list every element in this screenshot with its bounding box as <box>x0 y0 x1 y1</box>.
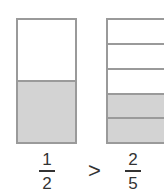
fraction-model-halves <box>16 18 77 144</box>
half-part-shaded <box>18 82 75 142</box>
fraction-one-half: 1 2 <box>37 151 57 192</box>
denominator: 2 <box>37 175 57 192</box>
half-part-unshaded <box>18 20 75 81</box>
fifth-part-1 <box>108 20 164 44</box>
fraction-bar <box>39 170 55 172</box>
fifth-part-4-shaded <box>108 95 164 118</box>
fifth-part-5-shaded <box>108 119 164 142</box>
fifth-part-2 <box>108 45 164 69</box>
fifth-part-3 <box>108 70 164 94</box>
numerator: 1 <box>37 151 57 168</box>
greater-than-sign: > <box>88 160 101 182</box>
numerator: 2 <box>123 151 143 168</box>
fraction-two-fifths: 2 5 <box>123 151 143 192</box>
fraction-bar <box>125 170 141 172</box>
denominator: 5 <box>123 175 143 192</box>
fraction-model-fifths <box>106 18 164 144</box>
